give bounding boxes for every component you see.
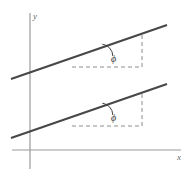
geometry-figure: y x ϕ ϕ bbox=[0, 0, 191, 177]
upper-line bbox=[11, 25, 167, 79]
x-axis-label: x bbox=[176, 152, 181, 162]
upper-angle-label: ϕ bbox=[111, 53, 116, 64]
y-axis-label: y bbox=[32, 11, 37, 21]
lower-angle-label: ϕ bbox=[111, 112, 116, 123]
lower-line bbox=[11, 84, 167, 138]
diagram-canvas: y x ϕ ϕ bbox=[0, 0, 191, 177]
